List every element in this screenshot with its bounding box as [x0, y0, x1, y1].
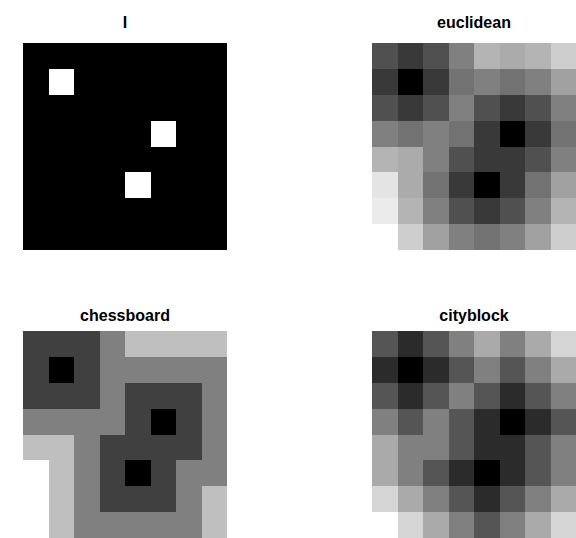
heatmap-cell — [449, 435, 475, 461]
heatmap-cell — [500, 409, 526, 435]
heatmap-grid — [23, 43, 227, 250]
panel-title: cityblock — [372, 307, 576, 325]
heatmap-cell — [423, 409, 449, 435]
heatmap-cell — [151, 147, 177, 173]
heatmap-cell — [74, 95, 100, 121]
heatmap-cell — [74, 435, 100, 461]
heatmap-cell — [551, 383, 576, 409]
heatmap-cell — [100, 43, 126, 69]
heatmap-grid — [372, 43, 576, 250]
heatmap-cell — [398, 147, 424, 173]
heatmap-cell — [202, 172, 228, 198]
heatmap-cell — [551, 198, 576, 224]
heatmap-cell — [151, 409, 177, 435]
heatmap-cell — [49, 512, 75, 538]
heatmap-cell — [100, 383, 126, 409]
heatmap-cell — [398, 95, 424, 121]
heatmap-cell — [449, 409, 475, 435]
heatmap-cell — [151, 486, 177, 512]
heatmap-cell — [151, 357, 177, 383]
heatmap-cell — [151, 198, 177, 224]
heatmap-cell — [398, 69, 424, 95]
heatmap-cell — [202, 435, 228, 461]
heatmap-cell — [525, 198, 551, 224]
heatmap-cell — [202, 224, 228, 250]
heatmap-cell — [398, 331, 424, 357]
heatmap-cell — [423, 512, 449, 538]
heatmap-cell — [525, 383, 551, 409]
heatmap-cell — [474, 357, 500, 383]
heatmap-cell — [49, 224, 75, 250]
heatmap-cell — [125, 43, 151, 69]
heatmap-cell — [49, 357, 75, 383]
heatmap-cell — [100, 460, 126, 486]
heatmap-cell — [176, 224, 202, 250]
heatmap-cell — [474, 486, 500, 512]
heatmap-cell — [423, 95, 449, 121]
heatmap-cell — [474, 198, 500, 224]
heatmap-cell — [372, 95, 398, 121]
heatmap-cell — [49, 121, 75, 147]
heatmap-cell — [525, 331, 551, 357]
heatmap-cell — [49, 147, 75, 173]
heatmap-cell — [151, 331, 177, 357]
heatmap-cell — [423, 383, 449, 409]
heatmap-cell — [202, 409, 228, 435]
heatmap-cell — [202, 331, 228, 357]
heatmap-cell — [23, 357, 49, 383]
heatmap-cell — [525, 409, 551, 435]
heatmap-cell — [151, 435, 177, 461]
heatmap-cell — [525, 147, 551, 173]
heatmap-cell — [398, 172, 424, 198]
heatmap-cell — [176, 357, 202, 383]
heatmap-cell — [449, 95, 475, 121]
heatmap-cell — [525, 69, 551, 95]
heatmap-cell — [372, 43, 398, 69]
heatmap-cell — [551, 43, 576, 69]
heatmap-cell — [398, 409, 424, 435]
heatmap-cell — [202, 460, 228, 486]
heatmap-cell — [525, 486, 551, 512]
heatmap-cell — [500, 486, 526, 512]
heatmap-cell — [176, 147, 202, 173]
heatmap-cell — [449, 486, 475, 512]
heatmap-cell — [372, 69, 398, 95]
heatmap-cell — [474, 512, 500, 538]
heatmap-cell — [125, 486, 151, 512]
heatmap-cell — [551, 95, 576, 121]
heatmap-cell — [49, 435, 75, 461]
heatmap-cell — [449, 460, 475, 486]
heatmap-cell — [500, 331, 526, 357]
heatmap-cell — [372, 460, 398, 486]
heatmap-cell — [23, 121, 49, 147]
heatmap-cell — [525, 95, 551, 121]
heatmap-cell — [525, 435, 551, 461]
heatmap-cell — [125, 172, 151, 198]
heatmap-cell — [449, 512, 475, 538]
heatmap-cell — [176, 486, 202, 512]
heatmap-cell — [372, 147, 398, 173]
heatmap-cell — [202, 383, 228, 409]
heatmap-cell — [551, 121, 576, 147]
heatmap-cell — [151, 95, 177, 121]
heatmap-cell — [176, 512, 202, 538]
heatmap-cell — [423, 172, 449, 198]
heatmap-cell — [176, 172, 202, 198]
heatmap-cell — [49, 460, 75, 486]
heatmap-cell — [500, 43, 526, 69]
heatmap-cell — [74, 69, 100, 95]
heatmap-cell — [74, 486, 100, 512]
heatmap-cell — [125, 383, 151, 409]
panel-title: I — [23, 14, 227, 32]
heatmap-cell — [202, 121, 228, 147]
heatmap-cell — [551, 460, 576, 486]
heatmap-cell — [49, 69, 75, 95]
heatmap-cell — [74, 224, 100, 250]
heatmap-cell — [125, 357, 151, 383]
heatmap-cell — [100, 69, 126, 95]
heatmap-cell — [474, 95, 500, 121]
heatmap-cell — [500, 460, 526, 486]
heatmap-cell — [372, 121, 398, 147]
heatmap-cell — [49, 486, 75, 512]
heatmap-cell — [551, 512, 576, 538]
